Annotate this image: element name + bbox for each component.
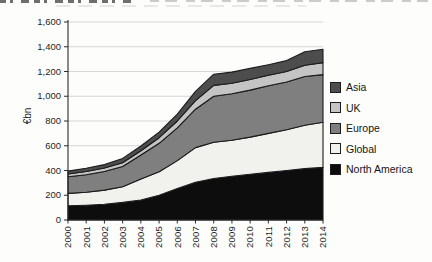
x-tick-label: 2004 (135, 226, 146, 248)
legend-item-asia: Asia (330, 82, 413, 92)
y-tick-label: 1,400 (37, 41, 61, 52)
area-series (68, 49, 323, 220)
y-tick-label: 600 (45, 140, 61, 151)
legend-label: Europe (346, 122, 380, 134)
y-tick-label: 200 (45, 189, 61, 200)
legend-swatch-icon (330, 164, 341, 175)
legend-item-global: Global (330, 144, 413, 154)
x-tick-label: 2007 (190, 226, 201, 248)
x-tick-label: 2014 (317, 226, 328, 248)
scanned-page: 02004006008001,0001,2001,4001,600 200020… (0, 0, 432, 262)
x-tick-label: 2012 (281, 226, 292, 248)
x-tick-label: 2005 (153, 226, 164, 248)
legend-swatch-icon (330, 82, 341, 93)
legend-item-europe: Europe (330, 123, 413, 133)
legend-item-uk: UK (330, 103, 413, 113)
x-tick-label: 2006 (172, 226, 183, 248)
legend-label: North America (346, 163, 413, 175)
legend-swatch-icon (330, 102, 341, 113)
y-tick-label: 400 (45, 165, 61, 176)
legend-item-north-america: North America (330, 164, 413, 174)
y-tick-label: 1,000 (37, 90, 61, 101)
x-axis-tick-labels: 2000200120022003200420052006200720082009… (62, 226, 328, 248)
legend-label: Global (346, 143, 376, 155)
x-tick-label: 2011 (263, 226, 274, 247)
y-tick-label: 1,600 (37, 16, 61, 27)
legend-label: UK (346, 102, 361, 114)
chart-legend: AsiaUKEuropeGlobalNorth America (330, 82, 413, 185)
legend-swatch-icon (330, 123, 341, 134)
y-axis-title: €bn (22, 108, 33, 125)
x-tick-label: 2003 (117, 226, 128, 248)
x-tick-label: 2008 (208, 226, 219, 248)
y-tick-label: 800 (45, 115, 61, 126)
y-tick-label: 1,200 (37, 66, 61, 77)
x-tick-label: 2009 (226, 226, 237, 248)
x-tick-label: 2000 (62, 226, 73, 248)
y-axis-tick-labels: 02004006008001,0001,2001,4001,600 (37, 16, 61, 225)
legend-label: Asia (346, 81, 366, 93)
x-tick-label: 2013 (299, 226, 310, 248)
x-tick-label: 2001 (81, 226, 92, 248)
legend-swatch-icon (330, 143, 341, 154)
x-tick-label: 2002 (99, 226, 110, 248)
x-tick-label: 2010 (244, 226, 255, 248)
y-tick-label: 0 (56, 214, 61, 225)
